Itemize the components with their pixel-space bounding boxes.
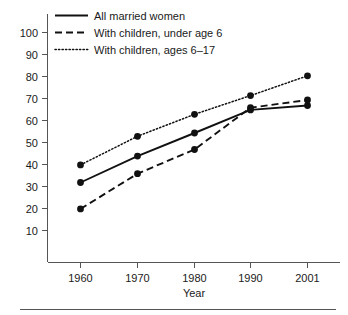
legend-label: With children, under age 6 <box>94 27 222 39</box>
y-tick-60: 60 <box>26 115 48 127</box>
legend: All married women With children, under a… <box>55 10 222 56</box>
y-tick-50: 50 <box>26 137 48 149</box>
y-tick-label: 10 <box>26 225 38 237</box>
x-axis-title: Year <box>183 287 206 299</box>
legend-item-all-married-women[interactable]: All married women <box>55 10 185 22</box>
data-point <box>304 72 311 79</box>
x-tick-label: 1980 <box>182 272 206 284</box>
data-point <box>304 97 311 104</box>
y-axis-ticks: 10 20 30 40 50 60 <box>20 27 48 237</box>
legend-item-with-children-under-6[interactable]: With children, under age 6 <box>55 27 222 39</box>
x-tick-1980: 1980 <box>182 263 206 285</box>
x-tick-2001: 2001 <box>295 263 319 285</box>
legend-label: With children, ages 6–17 <box>94 44 215 56</box>
series-with-children-6-17 <box>77 72 311 168</box>
data-point <box>191 111 198 118</box>
y-tick-label: 40 <box>26 159 38 171</box>
line-chart: 10 20 30 40 50 60 <box>0 0 348 315</box>
x-tick-1990: 1990 <box>238 263 262 285</box>
data-point <box>134 133 141 140</box>
x-tick-label: 2001 <box>295 272 319 284</box>
y-tick-20: 20 <box>26 203 48 215</box>
figure-container: 10 20 30 40 50 60 <box>0 0 348 315</box>
y-tick-label: 30 <box>26 181 38 193</box>
y-tick-label: 90 <box>26 49 38 61</box>
data-point <box>77 206 84 213</box>
y-tick-label: 50 <box>26 137 38 149</box>
data-point <box>191 146 198 153</box>
y-tick-70: 70 <box>26 93 48 105</box>
data-point <box>77 179 84 186</box>
legend-label: All married women <box>94 10 185 22</box>
x-axis-ticks: 1960 1970 1980 1990 2001 <box>68 263 319 285</box>
y-tick-label: 80 <box>26 71 38 83</box>
data-point <box>191 130 198 137</box>
y-tick-100: 100 <box>20 27 48 39</box>
data-point <box>247 92 254 99</box>
y-tick-label: 70 <box>26 93 38 105</box>
x-tick-label: 1970 <box>125 272 149 284</box>
y-tick-90: 90 <box>26 49 48 61</box>
data-point <box>77 162 84 169</box>
data-point <box>247 104 254 111</box>
x-tick-1970: 1970 <box>125 263 149 285</box>
y-tick-30: 30 <box>26 181 48 193</box>
x-tick-1960: 1960 <box>68 263 92 285</box>
y-tick-label: 100 <box>20 27 38 39</box>
y-tick-40: 40 <box>26 159 48 171</box>
legend-item-with-children-6-17[interactable]: With children, ages 6–17 <box>55 44 215 56</box>
x-tick-label: 1960 <box>68 272 92 284</box>
y-tick-label: 20 <box>26 203 38 215</box>
y-tick-80: 80 <box>26 71 48 83</box>
data-point <box>134 153 141 160</box>
y-tick-10: 10 <box>26 225 48 237</box>
data-point <box>134 170 141 177</box>
y-tick-label: 60 <box>26 115 38 127</box>
x-tick-label: 1990 <box>238 272 262 284</box>
